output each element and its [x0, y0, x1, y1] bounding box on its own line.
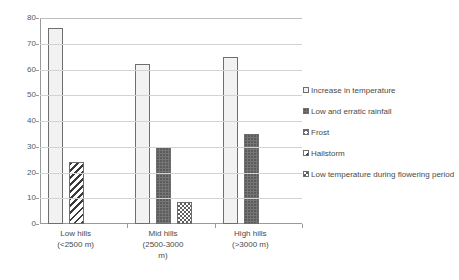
y-tick-label: 70	[2, 40, 36, 48]
legend-swatch-icon	[303, 171, 309, 177]
x-axis-category-label-line: (<2500 m)	[39, 239, 113, 250]
y-tick-mark	[36, 147, 39, 148]
bar	[48, 28, 63, 224]
legend-item[interactable]: Frost	[303, 128, 455, 138]
plot-area	[40, 18, 302, 224]
x-tick-mark	[215, 224, 216, 228]
x-tick-mark	[127, 224, 128, 228]
x-axis-category-label-line: High hills	[213, 228, 287, 239]
legend-swatch-icon	[303, 87, 309, 93]
y-tick-mark	[36, 121, 39, 122]
gridline	[40, 95, 302, 96]
gridline	[40, 147, 302, 148]
y-tick-mark	[36, 95, 39, 96]
x-axis-category-label: Mid hills(2500-3000m)	[126, 228, 200, 261]
legend-label: Hailstorm	[311, 149, 345, 159]
x-tick-mark	[302, 224, 303, 228]
y-tick-label: 0	[2, 220, 36, 228]
legend-label: Low temperature during flowering period	[311, 170, 454, 180]
legend-label: Low and erratic rainfall	[311, 107, 391, 117]
y-tick-label: 60	[2, 66, 36, 74]
gridline	[40, 44, 302, 45]
y-tick-mark	[36, 18, 39, 19]
legend-item[interactable]: Low temperature during flowering period	[303, 170, 455, 180]
legend-swatch-icon	[303, 150, 309, 156]
y-axis: 01020304050607080	[0, 18, 36, 224]
gridline	[40, 70, 302, 71]
bar	[177, 202, 192, 224]
x-axis-category-label: Low hills(<2500 m)	[39, 228, 113, 250]
x-axis-category-label-line: (2500-3000	[126, 239, 200, 250]
bar	[156, 147, 171, 224]
y-tick-label: 40	[2, 117, 36, 125]
legend-item[interactable]: Hailstorm	[303, 149, 455, 159]
y-tick-label: 10	[2, 194, 36, 202]
bar-chart: 01020304050607080 Low hills(<2500 m)Mid …	[0, 0, 459, 280]
gridline	[40, 198, 302, 199]
y-tick-mark	[36, 224, 39, 225]
y-tick-mark	[36, 198, 39, 199]
y-tick-mark	[36, 44, 39, 45]
gridline	[40, 121, 302, 122]
y-tick-mark	[36, 173, 39, 174]
x-axis-category-label-line: (>3000 m)	[213, 239, 287, 250]
x-axis-category-label: High hills(>3000 m)	[213, 228, 287, 250]
legend-swatch-icon	[303, 129, 309, 135]
y-tick-label: 50	[2, 91, 36, 99]
bar	[135, 64, 150, 224]
y-tick-label: 30	[2, 143, 36, 151]
legend-swatch-icon	[303, 108, 309, 114]
gridline	[40, 173, 302, 174]
legend-label: Frost	[311, 128, 329, 138]
y-tick-mark	[36, 70, 39, 71]
legend-item[interactable]: Low and erratic rainfall	[303, 107, 455, 117]
legend-item[interactable]: Increase in temperature	[303, 86, 455, 96]
x-axis-category-label-line: Mid hills	[126, 228, 200, 239]
x-axis-category-label-line: Low hills	[39, 228, 113, 239]
legend-label: Increase in temperature	[311, 86, 396, 96]
y-tick-label: 80	[2, 14, 36, 22]
bar	[69, 162, 84, 224]
gridline	[40, 18, 302, 19]
x-axis-category-labels: Low hills(<2500 m)Mid hills(2500-3000m)H…	[40, 228, 302, 274]
x-axis-category-label-line: m)	[126, 250, 200, 261]
y-tick-label: 20	[2, 169, 36, 177]
